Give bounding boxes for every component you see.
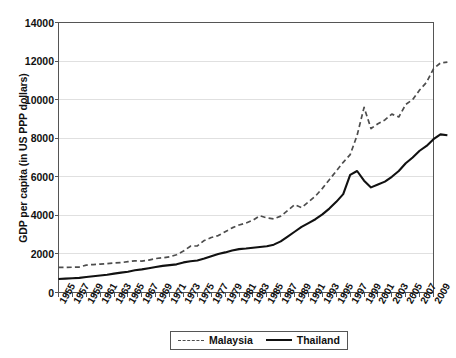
legend-swatch-solid-icon [266,339,292,341]
legend-label-thailand: Thailand [297,334,340,346]
x-axis-tick-labels: 1955195719591961196319651967196919711973… [0,0,456,358]
legend-swatch-dashed-icon [178,340,204,341]
gdp-per-capita-line-chart: 02000400060008000100001200014000 GDP per… [0,0,456,358]
legend-entry-thailand: Thailand [266,334,340,346]
legend-entry-malaysia: Malaysia [178,334,253,346]
legend-label-malaysia: Malaysia [209,334,253,346]
chart-legend: Malaysia Thailand [170,331,348,350]
